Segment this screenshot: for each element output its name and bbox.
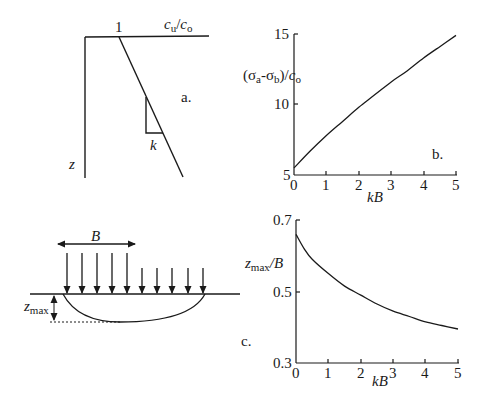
c-xtick-5: 5 [454, 366, 462, 381]
c-xtick-2: 2 [357, 366, 365, 381]
panel-c-ylabel: zmax/B [245, 256, 283, 271]
curve-c [296, 234, 458, 329]
b-xtick-5: 5 [452, 178, 460, 193]
strength-axis-line [85, 36, 209, 37]
depth-axis-label: z [69, 157, 75, 172]
b-xtick-0: 0 [290, 178, 298, 193]
c-xtick-4: 4 [421, 366, 429, 381]
panel-a-tag: a. [181, 90, 191, 105]
c-ytick-0.5: 0.5 [273, 285, 292, 300]
slope-label: k [150, 138, 157, 153]
panel-b-tag: b. [432, 147, 443, 162]
panel-c-tag: c. [241, 334, 251, 349]
c-ytick-0.3: 0.3 [273, 356, 292, 371]
panel-c-axes [296, 220, 459, 363]
b-xtick-2: 2 [355, 178, 363, 193]
c-xlabel: kB [372, 374, 388, 389]
b-xtick-4: 4 [420, 178, 428, 193]
b-ytick-15: 15 [274, 27, 289, 42]
intercept-label: 1 [115, 20, 123, 35]
zmax-label: zmax [24, 299, 49, 314]
load-arrows-light [142, 268, 203, 293]
panel-b-ylabel: (σa-σb)/co [243, 68, 301, 83]
c-xtick-3: 3 [389, 366, 397, 381]
failure-mechanism-arc [63, 294, 205, 322]
panel-c-diagram [30, 244, 240, 322]
b-xtick-3: 3 [387, 178, 395, 193]
strength-profile-line [119, 37, 183, 177]
b-xlabel: kB [367, 190, 383, 205]
b-xtick-1: 1 [322, 178, 330, 193]
b-ytick-10: 10 [274, 97, 289, 112]
c-ytick-0.7: 0.7 [273, 213, 292, 228]
c-xtick-0: 0 [292, 366, 300, 381]
load-arrows-heavy [67, 253, 127, 293]
strength-axis-label: cu/co [164, 17, 193, 32]
width-label: B [91, 229, 100, 244]
panel-a-diagram [85, 36, 209, 178]
c-xtick-1: 1 [324, 366, 332, 381]
